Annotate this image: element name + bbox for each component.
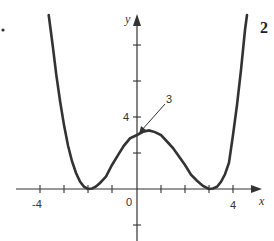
annotation-label: 3 (166, 93, 172, 105)
problem-marker-dot (1, 28, 4, 31)
y-axis-arrow-icon (133, 14, 141, 26)
x-axis-label: x (258, 194, 265, 208)
x-axis-arrow-icon (251, 185, 262, 193)
x-tick-label-4: 4 (230, 199, 236, 211)
y-axis-label: y (124, 12, 131, 26)
x-tick-label-neg4: -4 (32, 198, 42, 210)
y-tick-label-4: 4 (123, 111, 129, 123)
function-graph: 2 x y -4 0 4 4 3 (0, 0, 274, 241)
function-curve (49, 15, 247, 189)
problem-number: 2 (260, 19, 268, 36)
annotation-arrow (141, 104, 165, 131)
origin-label: 0 (126, 196, 132, 208)
